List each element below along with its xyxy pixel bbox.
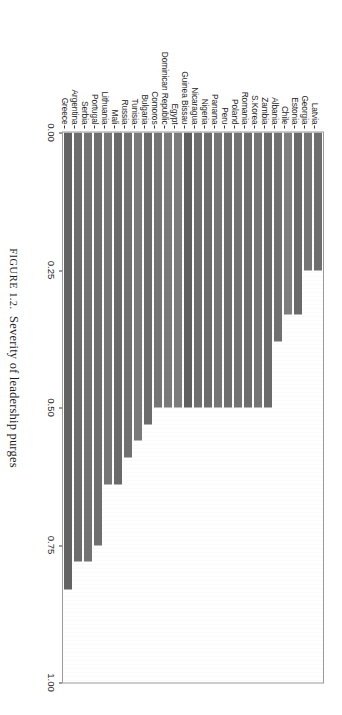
bar bbox=[114, 132, 121, 484]
bar-row bbox=[314, 132, 321, 682]
bar-row bbox=[94, 132, 101, 682]
category-label: Latvia bbox=[311, 102, 320, 124]
bar-row bbox=[164, 132, 171, 682]
category-label: Nigeria bbox=[201, 98, 210, 124]
bar-row bbox=[194, 132, 201, 682]
category-label: Chile bbox=[281, 105, 290, 124]
bar bbox=[194, 132, 201, 407]
value-tick bbox=[59, 132, 62, 133]
bar bbox=[124, 132, 131, 457]
bar bbox=[134, 132, 141, 440]
category-label: Panama bbox=[211, 93, 220, 124]
category-tick bbox=[94, 125, 95, 128]
bar-row bbox=[294, 132, 301, 682]
category-label: Poland bbox=[231, 99, 240, 124]
bar-row bbox=[84, 132, 91, 682]
caption-text: Severity of leadership purges bbox=[7, 316, 21, 468]
value-tick-label: 1.00 bbox=[46, 673, 57, 692]
category-tick bbox=[144, 125, 145, 128]
bar-chart: LatviaGeorgiaEstoniaChileAlbaniaZambiaS.… bbox=[42, 0, 342, 715]
category-tick bbox=[234, 125, 235, 128]
category-tick bbox=[244, 125, 245, 128]
bar bbox=[294, 132, 301, 314]
category-tick bbox=[164, 125, 165, 128]
bar bbox=[184, 132, 191, 407]
category-tick bbox=[154, 125, 155, 128]
bar bbox=[214, 132, 221, 407]
bar bbox=[204, 132, 211, 407]
category-tick bbox=[114, 125, 115, 128]
bar-row bbox=[64, 132, 71, 682]
category-label: S.Korea bbox=[251, 94, 260, 124]
value-tick-label: 0.25 bbox=[46, 260, 57, 279]
category-tick bbox=[174, 125, 175, 128]
category-tick bbox=[184, 125, 185, 128]
bar-row bbox=[264, 132, 271, 682]
category-label: Comoros bbox=[151, 91, 160, 124]
bar bbox=[94, 132, 101, 545]
bar bbox=[174, 132, 181, 407]
figure-container: LatviaGeorgiaEstoniaChileAlbaniaZambiaS.… bbox=[0, 0, 342, 715]
category-tick bbox=[304, 125, 305, 128]
value-tick bbox=[59, 545, 62, 546]
category-label: Bulgaria bbox=[141, 94, 150, 124]
bar-row bbox=[174, 132, 181, 682]
category-label: Portugal bbox=[91, 94, 100, 124]
category-tick bbox=[84, 125, 85, 128]
category-label: Nicaragua bbox=[191, 87, 200, 124]
bar bbox=[244, 132, 251, 407]
bar-row bbox=[134, 132, 141, 682]
value-tick bbox=[59, 407, 62, 408]
bar bbox=[284, 132, 291, 314]
bar-row bbox=[154, 132, 161, 682]
bar bbox=[74, 132, 81, 561]
bar-row bbox=[74, 132, 81, 682]
category-tick bbox=[284, 125, 285, 128]
bar-row bbox=[124, 132, 131, 682]
category-label: Albania bbox=[271, 97, 280, 124]
bar-row bbox=[274, 132, 281, 682]
category-tick bbox=[264, 125, 265, 128]
category-tick bbox=[254, 125, 255, 128]
caption-figure-word: FIGURE bbox=[8, 248, 19, 289]
value-tick bbox=[59, 270, 62, 271]
bar-row bbox=[144, 132, 151, 682]
bar bbox=[254, 132, 261, 407]
bar-row bbox=[304, 132, 311, 682]
category-tick bbox=[64, 125, 65, 128]
bar bbox=[264, 132, 271, 407]
category-tick bbox=[134, 125, 135, 128]
bar-row bbox=[214, 132, 221, 682]
figure-caption: FIGURE 1.2. Severity of leadership purge… bbox=[6, 0, 21, 715]
category-label: Georgia bbox=[301, 95, 310, 124]
category-tick bbox=[104, 125, 105, 128]
bar bbox=[314, 132, 321, 270]
category-label: Zambia bbox=[261, 97, 270, 124]
bar bbox=[154, 132, 161, 407]
category-label: Estonia bbox=[291, 97, 300, 124]
bar-row bbox=[114, 132, 121, 682]
category-label: Peru bbox=[221, 107, 230, 124]
bar bbox=[84, 132, 91, 561]
category-label: Serbia bbox=[81, 100, 90, 124]
category-label: Dominican Republic bbox=[161, 51, 170, 124]
caption-figure-number: 1.2. bbox=[8, 292, 19, 309]
category-tick bbox=[224, 125, 225, 128]
category-label: Tunisia bbox=[131, 98, 140, 124]
plot-area bbox=[62, 131, 324, 683]
category-label: Russia bbox=[121, 99, 130, 124]
bar-row bbox=[204, 132, 211, 682]
category-label: Mali bbox=[111, 109, 120, 124]
bar bbox=[224, 132, 231, 407]
value-tick-label: 0.00 bbox=[46, 123, 57, 142]
value-tick-label: 0.50 bbox=[46, 398, 57, 417]
bar-row bbox=[254, 132, 261, 682]
category-label: Guinea Bissau bbox=[181, 71, 190, 124]
category-tick bbox=[194, 125, 195, 128]
bar bbox=[144, 132, 151, 424]
category-tick bbox=[314, 125, 315, 128]
bar-row bbox=[284, 132, 291, 682]
category-tick bbox=[204, 125, 205, 128]
category-label: Greece bbox=[61, 97, 70, 124]
category-tick bbox=[74, 125, 75, 128]
